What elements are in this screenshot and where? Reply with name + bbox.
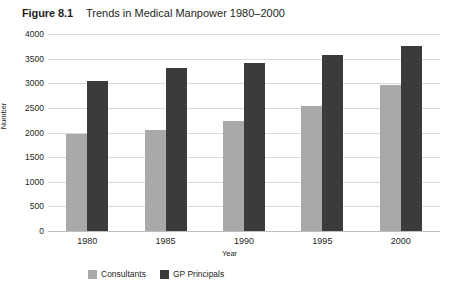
y-axis-tick-label: 2500 (4, 104, 44, 113)
bar-groups (48, 34, 440, 231)
bar-gp-principals-1995 (322, 55, 343, 231)
legend-label: Consultants (101, 269, 146, 279)
y-axis-tick-label: 0 (4, 227, 44, 236)
x-axis-tick-label: 1980 (48, 236, 126, 246)
bar-consultants-1980 (66, 134, 87, 231)
bar-consultants-1995 (301, 106, 322, 231)
y-axis-tick-label: 3000 (4, 79, 44, 88)
x-axis-tick-label: 1985 (126, 236, 204, 246)
x-axis-title: Year (0, 249, 459, 258)
y-axis-tick-label: 3500 (4, 55, 44, 64)
legend-swatch-icon (160, 270, 169, 279)
bar-gp-principals-1980 (87, 81, 108, 231)
figure-number: Figure 8.1 (22, 7, 73, 19)
figure-title: Figure 8.1Trends in Medical Manpower 198… (22, 6, 285, 20)
bar-consultants-1985 (145, 130, 166, 231)
legend-item: GP Principals (160, 269, 224, 279)
chart-legend: ConsultantsGP Principals (88, 269, 233, 279)
bar-gp-principals-2000 (401, 46, 422, 231)
bar-group (380, 34, 422, 231)
bar-group (66, 34, 108, 231)
bar-group (223, 34, 265, 231)
bar-consultants-1990 (223, 121, 244, 231)
figure-caption: Trends in Medical Manpower 1980–2000 (86, 7, 285, 19)
y-axis-tick-label: 4000 (4, 30, 44, 39)
gridline (48, 231, 440, 232)
legend-item: Consultants (88, 269, 146, 279)
x-axis-tick-label: 2000 (362, 236, 440, 246)
bar-group (301, 34, 343, 231)
chart: Number 05001000150020002500300035004000 … (0, 26, 459, 295)
y-axis-ticks: 05001000150020002500300035004000 (0, 34, 44, 231)
bar-group (145, 34, 187, 231)
bar-consultants-2000 (380, 85, 401, 231)
x-axis-tick-label: 1995 (283, 236, 361, 246)
legend-label: GP Principals (173, 269, 224, 279)
x-axis-tick-label: 1990 (205, 236, 283, 246)
bar-gp-principals-1990 (244, 63, 265, 231)
y-axis-tick-label: 2000 (4, 129, 44, 138)
y-axis-tick-label: 1500 (4, 153, 44, 162)
bar-gp-principals-1985 (166, 68, 187, 231)
y-axis-tick-label: 1000 (4, 178, 44, 187)
y-axis-tick-label: 500 (4, 202, 44, 211)
legend-swatch-icon (88, 270, 97, 279)
figure-container: Figure 8.1Trends in Medical Manpower 198… (0, 0, 459, 295)
